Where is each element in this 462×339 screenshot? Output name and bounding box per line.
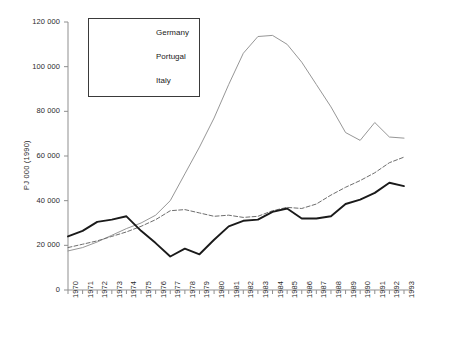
- x-axis-tick-label: 1992: [392, 281, 401, 298]
- x-axis-tick-label: 1975: [144, 281, 153, 298]
- legend-label-italy: Italy: [156, 76, 171, 85]
- x-axis-tick-label: 1972: [100, 281, 109, 298]
- y-axis-tick-label: 0: [0, 285, 60, 294]
- x-axis-tick-label: 1993: [407, 281, 416, 298]
- x-axis-tick-label: 1977: [173, 281, 182, 298]
- x-axis-tick-label: 1974: [129, 281, 138, 298]
- x-axis-tick-label: 1988: [334, 281, 343, 298]
- y-axis-tick-label: 20 000: [0, 240, 60, 249]
- x-axis-tick-label: 1971: [86, 281, 95, 298]
- x-axis-tick-label: 1981: [232, 281, 241, 298]
- x-axis-tick-label: 1973: [115, 281, 124, 298]
- legend-label-germany: Germany: [156, 28, 189, 37]
- x-axis-tick-label: 1982: [246, 281, 255, 298]
- x-axis-tick-label: 1980: [217, 281, 226, 298]
- x-axis-tick-label: 1978: [188, 281, 197, 298]
- x-axis-tick-label: 1986: [305, 281, 314, 298]
- y-axis-tick-label: 60 000: [0, 151, 60, 160]
- x-axis-tick-label: 1979: [202, 281, 211, 298]
- x-axis-tick-label: 1985: [290, 281, 299, 298]
- x-axis-tick-label: 1976: [159, 281, 168, 298]
- x-axis-tick-label: 1987: [319, 281, 328, 298]
- x-axis-tick-label: 1989: [349, 281, 358, 298]
- series-line-italy: [68, 183, 404, 257]
- x-axis-tick-label: 1970: [71, 281, 80, 298]
- x-axis-tick-label: 1991: [378, 281, 387, 298]
- y-axis-tick-label: 40 000: [0, 196, 60, 205]
- y-axis-tick-label: 80 000: [0, 106, 60, 115]
- y-axis-tick-label: 100 000: [0, 62, 60, 71]
- legend-label-portugal: Portugal: [156, 52, 186, 61]
- x-axis-tick-label: 1990: [363, 281, 372, 298]
- x-axis-tick-label: 1983: [261, 281, 270, 298]
- y-axis-tick-label: 120 000: [0, 17, 60, 26]
- x-axis-tick-label: 1984: [276, 281, 285, 298]
- line-chart: PJ 000 (1990) 020 00040 00060 00080 0001…: [0, 0, 462, 339]
